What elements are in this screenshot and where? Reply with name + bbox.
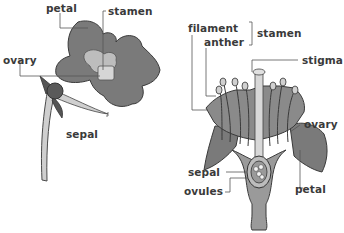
ovule [254,167,259,172]
external-flower [40,21,160,181]
label-ovules: ovules [184,186,223,197]
petal-right-section [290,123,327,172]
sepal-lower [52,98,63,118]
label-ovary-right: ovary [304,119,338,130]
style [255,72,263,162]
sepal-long [56,92,108,114]
label-petal-left: petal [46,3,77,14]
label-sepal-left: sepal [66,129,98,140]
label-petal-right: petal [295,184,326,195]
stamen-cluster [98,66,114,80]
stigma-tip [253,69,265,75]
label-anther: anther [204,37,244,48]
ovule [259,165,264,170]
label-sepal-right: sepal [188,167,220,178]
ovary-bulb [47,83,63,99]
ovule [260,175,264,179]
label-ovary-left: ovary [3,55,37,66]
label-stigma: stigma [302,55,343,66]
label-filament: filament [188,23,238,34]
label-stamen-right: stamen [257,28,302,39]
cross-section-flower [204,69,327,230]
label-stamen-left: stamen [108,6,153,17]
